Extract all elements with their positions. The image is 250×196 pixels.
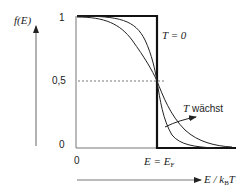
label-t-grows: T wächst [183,103,223,114]
curve-t-low [77,16,215,148]
curve-t-zero [77,16,236,148]
y-axis-label: f(E) [14,15,31,26]
curve-t-high [77,17,232,147]
x-axis-label-t: T [229,173,235,185]
label-t-grows-symbol: T [183,102,189,114]
x-axis-label-main: E / k [204,173,224,185]
fermi-dirac-plot [0,0,250,196]
label-t-zero: T = 0 [162,30,186,41]
x-tick-zero: 0 [74,156,80,166]
label-fermi-sub: F [170,161,174,169]
label-fermi-main: E = E [144,155,170,167]
label-fermi-energy: E = EF [144,156,174,169]
tick-one: 1 [59,13,65,23]
tick-zero: 0 [59,140,65,150]
label-t-grows-word: wächst [192,103,223,114]
tick-half: 0,5 [52,76,66,86]
x-axis-label: E / kBT [204,174,235,187]
